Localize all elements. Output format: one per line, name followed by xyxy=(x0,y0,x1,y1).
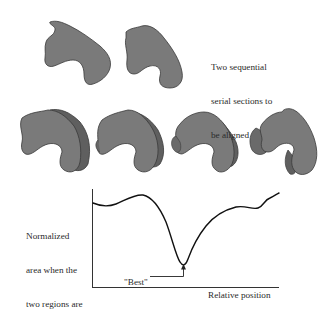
overlay-1-shape xyxy=(21,110,90,172)
caption-line-2: serial sections to xyxy=(211,96,272,107)
y-label-line-1: Normalized xyxy=(26,231,88,242)
caption-line-3: be aligned xyxy=(211,130,272,141)
annotation-line-1: "Best" xyxy=(124,277,161,288)
y-label-line-3: two regions are xyxy=(26,299,88,309)
overlay-2-shape xyxy=(96,110,164,172)
ex-or-curve xyxy=(93,193,279,265)
y-label-line-2: area when the xyxy=(26,265,88,276)
section-a-shape xyxy=(45,21,111,84)
caption-line-1: Two sequential xyxy=(211,62,272,73)
section-b-shape xyxy=(125,26,182,88)
x-axis-label: Relative position xyxy=(208,290,271,301)
best-alignment-label: "Best" alignment xyxy=(124,255,161,309)
y-axis-label: Normalized area when the two regions are… xyxy=(26,209,88,309)
sections-caption: Two sequential serial sections to be ali… xyxy=(211,40,272,152)
